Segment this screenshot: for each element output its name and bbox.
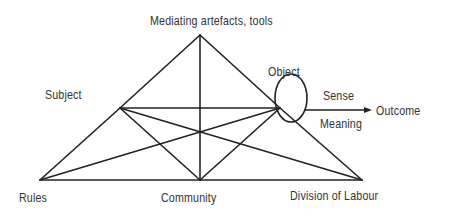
edge-object-community — [200, 108, 280, 180]
edge-subject-rules — [40, 108, 120, 180]
label-division: Division of Labour — [290, 188, 378, 203]
label-sense: Sense — [323, 88, 354, 103]
label-community: Community — [161, 190, 216, 205]
label-object: Object — [268, 64, 300, 79]
edge-mediating-subject — [120, 35, 200, 108]
label-subject: Subject — [45, 87, 82, 102]
label-meaning: Meaning — [320, 116, 362, 131]
label-rules: Rules — [19, 190, 47, 205]
edge-object-rules — [40, 108, 280, 180]
label-mediating: Mediating artefacts, tools — [150, 13, 273, 28]
object-ellipse — [275, 74, 307, 122]
arrow-head-icon — [364, 107, 372, 113]
label-outcome: Outcome — [376, 103, 420, 118]
